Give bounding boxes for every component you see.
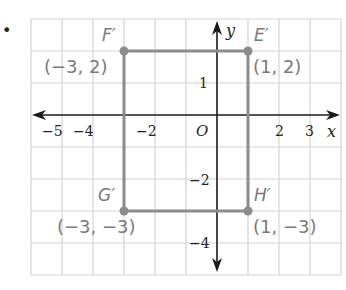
- x-tick-label: −4: [73, 124, 94, 138]
- vertex-H-coords: (1, −3): [253, 218, 316, 236]
- coordinate-plane: [0, 0, 346, 290]
- x-tick-label: −2: [136, 124, 157, 138]
- x-axis-label: x: [327, 124, 336, 140]
- vertex-G-coords: (−3, −3): [57, 218, 136, 236]
- x-tick-label: 3: [305, 124, 314, 138]
- origin-label: O: [196, 124, 208, 139]
- vertex-G-name: G′: [98, 187, 115, 204]
- y-axis-label: y: [226, 23, 235, 39]
- vertex-H-dot: [244, 207, 253, 216]
- vertex-G-dot: [120, 207, 129, 216]
- vertex-F-name: F′: [102, 27, 116, 44]
- x-tick-label: −5: [42, 124, 63, 138]
- vertex-E-name: E′: [254, 27, 269, 44]
- vertex-F-dot: [120, 47, 129, 56]
- x-tick-label: 2: [275, 124, 284, 138]
- vertex-H-name: H′: [254, 187, 271, 204]
- y-tick-label: −4: [189, 236, 210, 250]
- vertex-F-coords: (−3, 2): [44, 58, 107, 76]
- y-tick-label: −2: [189, 173, 210, 187]
- y-tick-label: 1: [199, 76, 208, 90]
- vertex-E-coords: (1, 2): [253, 58, 301, 76]
- vertex-E-dot: [244, 47, 253, 56]
